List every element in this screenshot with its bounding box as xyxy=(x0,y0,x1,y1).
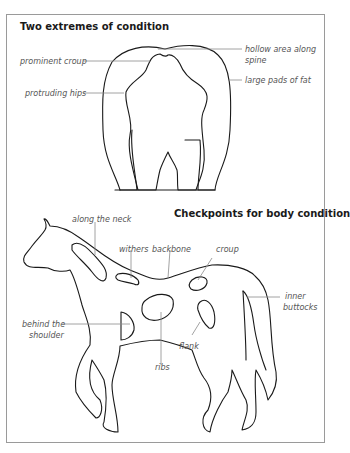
croup-oval xyxy=(189,277,207,290)
withers-oval xyxy=(116,273,139,284)
neck-oval xyxy=(72,243,106,281)
label-behind-shoulder-2: shoulder xyxy=(29,330,64,341)
label-along-the-neck: along the neck xyxy=(72,214,131,225)
label-prominent-croup: prominent croup xyxy=(20,56,87,67)
label-croup: croup xyxy=(216,244,239,255)
flank-oval xyxy=(198,300,215,328)
shoulder-half-moon xyxy=(121,312,134,340)
label-hollow-area-2: spine xyxy=(245,55,266,66)
label-inner-buttocks-1: inner xyxy=(285,291,306,302)
label-large-pads-of-fat: large pads of fat xyxy=(245,75,311,86)
label-backbone: backbone xyxy=(152,244,191,255)
label-inner-buttocks-2: buttocks xyxy=(283,302,318,313)
label-flank: flank xyxy=(179,341,199,352)
label-hollow-area-1: hollow area along xyxy=(245,44,316,55)
ribs-oval xyxy=(142,294,173,320)
fat-rear-outline xyxy=(103,46,231,190)
label-protruding-hips: protruding hips xyxy=(25,88,86,99)
label-ribs: ribs xyxy=(155,362,170,373)
bottom-panel-title: Checkpoints for body condition xyxy=(174,208,350,219)
top-panel-title: Two extremes of condition xyxy=(20,21,169,32)
label-withers: withers xyxy=(119,244,148,255)
thin-rear-outline xyxy=(126,54,207,190)
label-behind-shoulder-1: behind the xyxy=(22,319,65,330)
